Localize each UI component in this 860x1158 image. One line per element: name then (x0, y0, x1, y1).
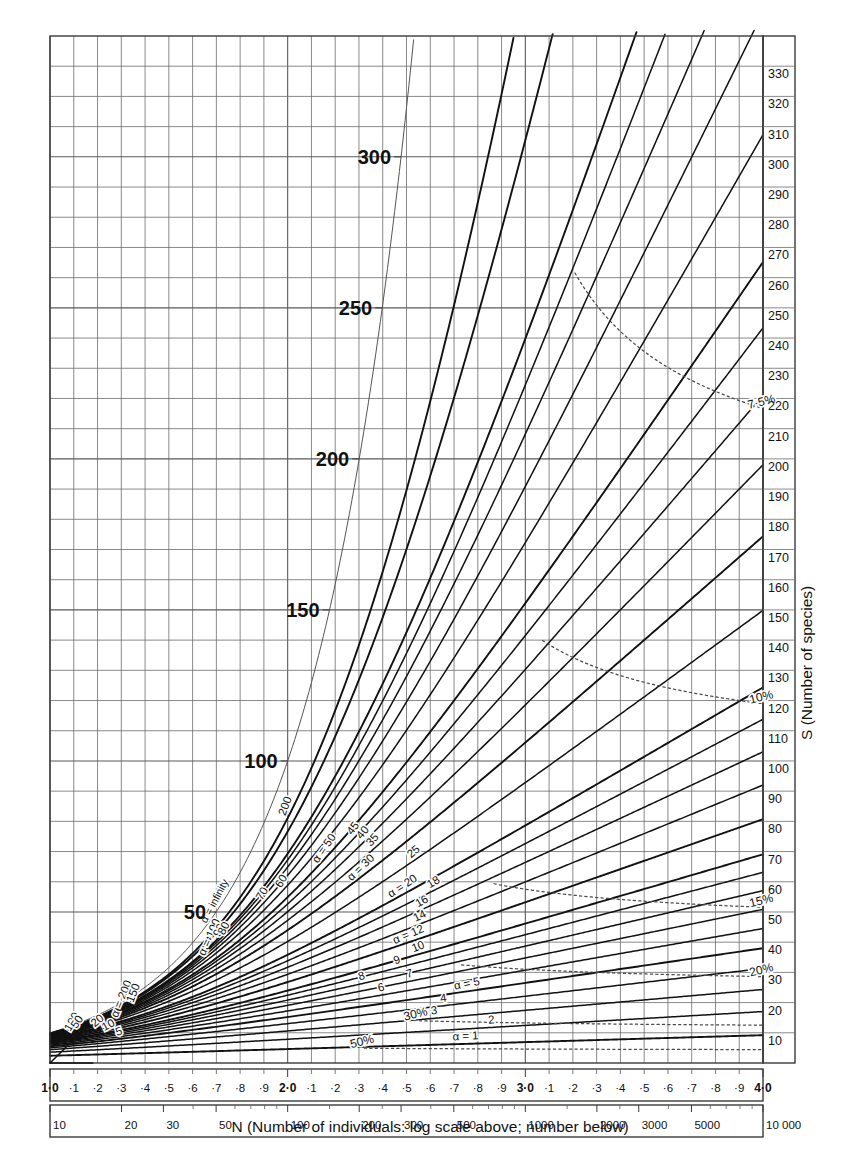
x-log-tick-label: ·7 (449, 1082, 459, 1094)
y-right-tick-label: 270 (768, 248, 789, 262)
x-log-tick-label: 1·0 (41, 1081, 59, 1095)
y-right-tick-label: 160 (768, 581, 789, 595)
x-log-tick-label: ·1 (69, 1082, 79, 1094)
y-left-tick-label: 100 (244, 750, 277, 772)
y-right-tick-label: 220 (768, 399, 789, 413)
x-log-tick-label: ·5 (401, 1082, 411, 1094)
x-log-tick-label: ·7 (687, 1082, 697, 1094)
y-right-tick-label: 80 (768, 822, 782, 836)
y-right-tick-label: 330 (768, 67, 789, 81)
y-right-tick-label: 40 (768, 943, 782, 957)
y-right-tick-label: 150 (768, 611, 789, 625)
x-log-tick-label: ·8 (235, 1082, 245, 1094)
y-right-tick-label: 180 (768, 520, 789, 534)
svg-text:7: 7 (405, 967, 414, 980)
svg-text:α = 1: α = 1 (452, 1029, 479, 1042)
alpha-curve-label: α = 1 (452, 1029, 479, 1042)
x-log-tick-label: ·6 (663, 1082, 673, 1094)
y-right-tick-label: 200 (768, 460, 789, 474)
x-log-tick-label: ·7 (211, 1082, 221, 1094)
x-log-tick-label: ·2 (330, 1082, 340, 1094)
x-log-tick-label: ·9 (734, 1082, 744, 1094)
x-log-tick-label: ·8 (710, 1082, 720, 1094)
y-left-tick-label: 50 (184, 901, 206, 923)
y-right-tick-label: 120 (768, 702, 789, 716)
alpha-curve-label: 4 (439, 991, 448, 1004)
y-right-tick-label: 250 (768, 309, 789, 323)
x-log-tick-label: ·9 (259, 1082, 269, 1094)
x-log-tick-label: ·3 (592, 1082, 602, 1094)
y-right-tick-label: 240 (768, 339, 789, 353)
alpha-curve-label: 6 (376, 981, 385, 994)
x-log-tick-label: ·3 (116, 1082, 126, 1094)
x-log-tick-label: ·5 (164, 1082, 174, 1094)
y-right-tick-label: 50 (768, 913, 782, 927)
x-log-tick-label: ·6 (425, 1082, 435, 1094)
y-right-tick-label: 10 (768, 1034, 782, 1048)
y-left-tick-label: 300 (358, 146, 391, 168)
y-right-tick-label: 70 (768, 853, 782, 867)
figure-root: α = infinity200α = 200150α = 10010090807… (0, 0, 860, 1158)
x-log-tick-label: ·1 (544, 1082, 554, 1094)
y-right-tick-label: 110 (768, 732, 788, 746)
x-log-tick-label: ·4 (140, 1082, 151, 1094)
x-log-tick-label: ·3 (354, 1082, 364, 1094)
y-left-tick-label: 250 (339, 297, 372, 319)
x-log-tick-label: ·5 (639, 1082, 649, 1094)
x-log-tick-label: ·4 (378, 1082, 389, 1094)
svg-text:200: 200 (276, 795, 294, 817)
x-axis-title: N (Number of individuals: log scale abov… (0, 1118, 860, 1136)
y-right-tick-label: 140 (768, 641, 789, 655)
x-log-tick-label: 2·0 (279, 1081, 297, 1095)
alpha-curve-label: 7 (405, 967, 414, 980)
y-right-tick-label: 230 (768, 369, 789, 383)
y-right-tick-label: 320 (768, 97, 789, 111)
alpha-curve-label: 2 (488, 1013, 495, 1026)
y-right-tick-label: 280 (768, 218, 789, 232)
y-right-tick-label: 90 (768, 792, 782, 806)
y-left-tick-label: 150 (286, 599, 319, 621)
x-log-tick-label: ·1 (306, 1082, 316, 1094)
svg-text:6: 6 (376, 981, 385, 994)
y-right-tick-label: 30 (768, 973, 782, 987)
y-left-tick-label: 200 (316, 448, 349, 470)
x-log-tick-label: 3·0 (517, 1081, 535, 1095)
y-right-tick-label: 260 (768, 279, 789, 293)
y-right-tick-label: 60 (768, 883, 782, 897)
nomogram-svg: α = infinity200α = 200150α = 10010090807… (0, 0, 860, 1158)
x-log-tick-label: ·4 (615, 1082, 626, 1094)
y-right-tick-label: 100 (768, 762, 789, 776)
y-right-tick-label: 20 (768, 1004, 782, 1018)
x-log-tick-label: ·2 (568, 1082, 578, 1094)
svg-text:2: 2 (488, 1013, 495, 1026)
percent-curve-labels: 3%4%5%5%7·5%10%15%20%30%50% (349, 0, 777, 1051)
y-right-tick-label: 170 (768, 551, 789, 565)
x-log-tick-label: ·2 (92, 1082, 102, 1094)
y-right-tick-label: 300 (768, 158, 789, 172)
y-right-tick-label: 310 (768, 128, 789, 142)
y-right-tick-label: 290 (768, 188, 789, 202)
y-right-tick-label: 190 (768, 490, 789, 504)
x-log-tick-label: ·6 (187, 1082, 197, 1094)
y-right-tick-label: 130 (768, 671, 789, 685)
y-axis-title: S (Number of species) (798, 460, 816, 740)
x-log-tick-label: ·8 (473, 1082, 483, 1094)
alpha-curve-label: 200 (276, 795, 294, 817)
x-log-tick-label: ·9 (496, 1082, 506, 1094)
x-log-tick-label: 4·0 (754, 1081, 772, 1095)
y-right-tick-label: 210 (768, 430, 789, 444)
svg-text:4: 4 (439, 991, 448, 1004)
